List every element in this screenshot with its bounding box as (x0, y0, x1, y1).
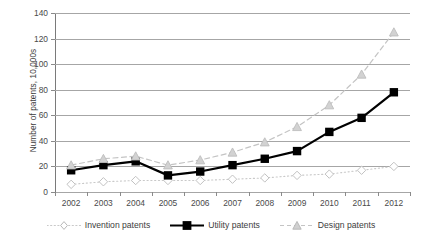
legend-swatch-design-icon (280, 220, 314, 231)
x-axis-tick-mark (249, 192, 250, 196)
data-point-marker (196, 167, 204, 175)
data-point-marker (390, 88, 398, 96)
data-point-marker (228, 148, 237, 156)
x-axis-tick-mark (216, 192, 217, 196)
data-point-marker (389, 28, 398, 36)
y-axis-tick-mark (51, 13, 55, 14)
data-point-marker (67, 180, 75, 188)
y-axis-tick-mark (51, 166, 55, 167)
x-axis-tick-mark (313, 192, 314, 196)
legend-item-invention-patents[interactable]: Invention patents (47, 220, 150, 231)
legend-label-utility-patents: Utility patents (208, 221, 260, 230)
x-axis-tick-mark (410, 192, 411, 196)
data-point-marker (293, 147, 301, 155)
series-design-patents (67, 28, 399, 169)
series-line (71, 32, 394, 165)
patents-line-chart: Number of patents, 10,000s 1401201008060… (0, 0, 422, 239)
legend-item-design-patents[interactable]: Design patents (280, 220, 375, 231)
x-axis-tick-label: 2012 (374, 198, 414, 208)
data-point-marker (261, 155, 269, 163)
data-point-marker (357, 70, 366, 78)
legend-label-design-patents: Design patents (318, 221, 375, 230)
legend-swatch-utility-icon (170, 220, 204, 231)
y-axis-tick-mark (51, 141, 55, 142)
data-point-marker (261, 174, 269, 182)
legend-item-utility-patents[interactable]: Utility patents (170, 220, 260, 231)
data-point-marker (164, 171, 172, 179)
legend-label-invention-patents: Invention patents (85, 221, 150, 230)
y-axis-tick-mark (51, 39, 55, 40)
data-point-marker (131, 176, 139, 184)
data-point-marker (325, 170, 333, 178)
data-point-marker (196, 176, 204, 184)
y-axis-tick-mark (51, 115, 55, 116)
data-point-marker (325, 128, 333, 136)
data-point-marker (390, 162, 398, 170)
data-point-marker (99, 178, 107, 186)
data-point-marker (357, 114, 365, 122)
x-axis-tick-mark (345, 192, 346, 196)
x-axis-tick-mark (281, 192, 282, 196)
x-axis-tick-mark (120, 192, 121, 196)
y-axis-tick-mark (51, 90, 55, 91)
x-axis-tick-mark (87, 192, 88, 196)
x-axis-tick-mark (55, 192, 56, 196)
data-point-marker (293, 171, 301, 179)
data-point-marker (228, 161, 236, 169)
legend-swatch-invention-icon (47, 220, 81, 231)
x-axis-tick-mark (184, 192, 185, 196)
data-point-marker (196, 156, 205, 164)
y-axis-tick-mark (51, 64, 55, 65)
data-point-marker (260, 138, 269, 146)
data-point-marker (228, 175, 236, 183)
x-axis-tick-mark (378, 192, 379, 196)
chart-legend: Invention patents Utility patents Design… (0, 220, 422, 231)
series-utility-patents (67, 88, 398, 180)
x-axis-tick-mark (152, 192, 153, 196)
data-point-marker (357, 166, 365, 174)
data-point-marker (293, 122, 302, 130)
